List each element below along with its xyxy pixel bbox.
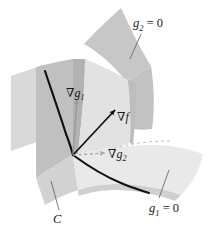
label-curve-c: C bbox=[53, 213, 61, 226]
label-grad-g2-subscript: 2 bbox=[122, 154, 126, 163]
label-gradient-g2: ∇g2 bbox=[108, 148, 126, 164]
label-gradient-f: ∇f bbox=[117, 111, 129, 123]
label-g2-relation: = 0 bbox=[147, 16, 163, 30]
label-grad-g1-subscript: 1 bbox=[80, 93, 84, 102]
lagrange-constraints-figure: g2 = 0 g1 = 0 ∇g1 ∇f ∇g2 C bbox=[0, 0, 209, 236]
label-g1-relation: = 0 bbox=[163, 201, 179, 215]
label-curve-c-symbol: C bbox=[53, 212, 61, 226]
label-g1-subscript: 1 bbox=[155, 208, 159, 218]
label-gradient-g1: ∇g1 bbox=[66, 87, 84, 103]
label-g2-subscript: 2 bbox=[139, 23, 143, 33]
label-grad-f-symbol: f bbox=[125, 110, 128, 124]
label-g2-equals-zero: g2 = 0 bbox=[133, 17, 163, 32]
label-g1-equals-zero: g1 = 0 bbox=[149, 202, 179, 217]
